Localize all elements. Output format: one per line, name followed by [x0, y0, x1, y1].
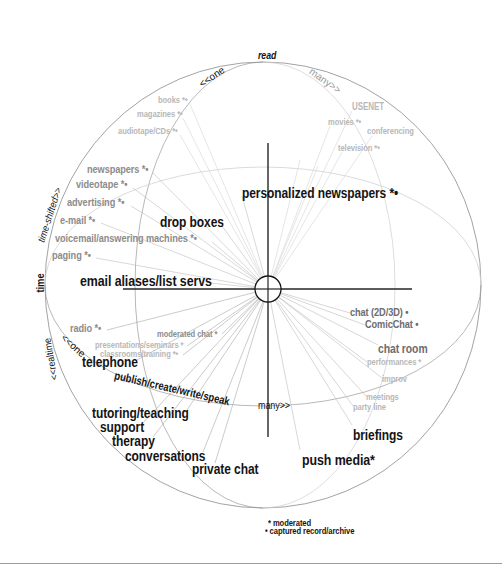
- label-usenet: USENET: [352, 102, 384, 112]
- label-private-chat: private chat: [192, 461, 258, 476]
- legend-captured-record: • captured record/archive: [265, 526, 354, 536]
- label-briefings: briefings: [353, 427, 403, 442]
- label-movies: movies *•: [328, 117, 361, 127]
- label-television: television *•: [338, 143, 380, 153]
- label-chat-room: chat room: [378, 342, 428, 355]
- label-audiotape-cds: audiotape/CDs *•: [118, 126, 178, 136]
- label-voicemail: voicemail/answering machines *•: [55, 233, 197, 245]
- label-radio: radio *•: [70, 323, 101, 335]
- label-improv: improv: [382, 374, 407, 384]
- label-comicchat: ComicChat •: [365, 319, 418, 331]
- label-paging: paging *•: [52, 250, 91, 262]
- label-chat-2d-3d: chat (2D/3D) •: [350, 307, 408, 319]
- axis-label-realtime-many: many>>: [258, 401, 290, 411]
- label-email-aliases: email aliases/list servs: [80, 273, 212, 289]
- label-push-media: push media*: [302, 452, 375, 468]
- label-party-line: party line: [353, 402, 386, 412]
- axis-label-time: time: [35, 273, 46, 292]
- label-performances: performances *: [367, 357, 421, 367]
- label-videotape: videotape *•: [76, 179, 127, 191]
- label-drop-boxes: drop boxes: [160, 214, 224, 229]
- label-books: books *•: [158, 95, 187, 105]
- label-telephone: telephone: [82, 354, 138, 369]
- communication-sphere-diagram: read time time-shifted>> <<realtime <<on…: [0, 0, 502, 574]
- label-moderated-chat: moderated chat *: [157, 329, 217, 339]
- sphere-graphic: [0, 0, 502, 574]
- bottom-divider: [0, 563, 502, 564]
- axis-label-read: read: [258, 50, 276, 61]
- label-conferencing: conferencing: [367, 126, 414, 136]
- label-advertising: advertising *•: [67, 197, 124, 209]
- label-therapy: therapy: [112, 433, 155, 448]
- label-personalized-newspapers: personalized newspapers *•: [242, 185, 398, 200]
- label-newspapers: newspapers *•: [87, 164, 149, 176]
- label-e-mail: e-mail *•: [60, 215, 95, 227]
- label-magazines: magazines *•: [137, 109, 183, 119]
